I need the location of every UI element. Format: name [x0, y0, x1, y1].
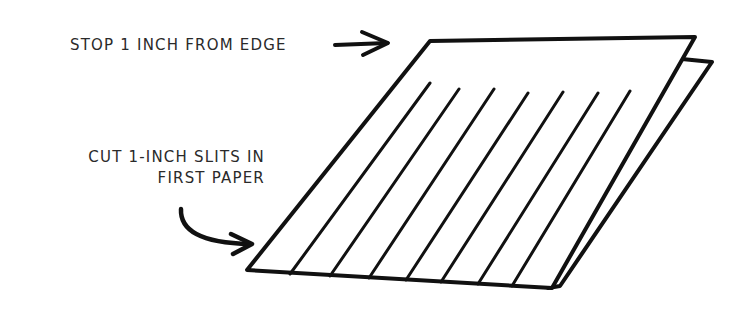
curved-arrow-icon — [181, 209, 252, 254]
arrow-right-icon — [335, 32, 388, 55]
first-paper — [247, 37, 695, 288]
paper-weaving-diagram — [0, 0, 748, 315]
